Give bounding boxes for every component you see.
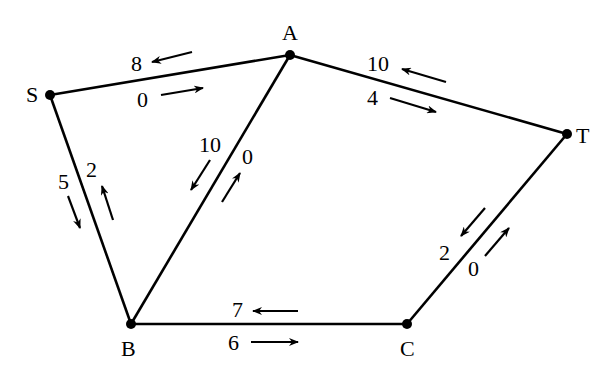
node-b: [126, 319, 136, 329]
flow-direction-arrow-icon: [191, 160, 210, 190]
node-a: [285, 50, 295, 60]
flow-direction-arrow-icon: [461, 208, 485, 236]
edge-flow-label: 4: [367, 85, 378, 110]
flow-network-diagram: 80104521007620SATBC: [0, 0, 615, 373]
edge-s-a: [50, 55, 290, 95]
edges: [50, 55, 567, 324]
labels: 80104521007620SATBC: [26, 20, 590, 361]
node-label-s: S: [26, 82, 38, 107]
diagram-svg: 80104521007620SATBC: [0, 0, 615, 373]
edge-flow-label: 6: [228, 330, 239, 355]
edge-flow-label: 0: [242, 144, 253, 169]
edge-a-t: [290, 55, 567, 134]
edge-flow-label: 7: [232, 297, 243, 322]
flow-direction-arrow-icon: [485, 228, 509, 256]
node-label-b: B: [121, 336, 136, 361]
edge-flow-label: 2: [86, 157, 97, 182]
node-c: [402, 319, 412, 329]
flow-direction-arrow-icon: [68, 196, 80, 228]
node-s: [45, 90, 55, 100]
flow-direction-arrow-icon: [390, 98, 436, 112]
flow-direction-arrow-icon: [102, 186, 113, 220]
flow-direction-arrow-icon: [152, 52, 192, 62]
edge-t-c: [407, 134, 567, 324]
nodes: [45, 50, 572, 329]
flow-direction-arrow-icon: [222, 173, 240, 202]
flow-direction-arrow-icon: [402, 69, 446, 82]
node-label-t: T: [576, 123, 590, 148]
flow-direction-arrow-icon: [161, 88, 203, 95]
edge-flow-label: 5: [58, 169, 69, 194]
edge-flow-label: 10: [367, 51, 389, 76]
flow-arrows: [68, 52, 509, 342]
edge-flow-label: 8: [131, 51, 142, 76]
edge-a-b: [131, 55, 290, 324]
edge-s-b: [50, 95, 131, 324]
node-t: [562, 129, 572, 139]
edge-flow-label: 0: [137, 87, 148, 112]
node-label-a: A: [282, 20, 298, 45]
edge-flow-label: 10: [199, 132, 221, 157]
edge-flow-label: 2: [439, 240, 450, 265]
edge-flow-label: 0: [468, 256, 479, 281]
node-label-c: C: [400, 336, 415, 361]
